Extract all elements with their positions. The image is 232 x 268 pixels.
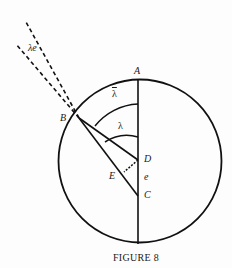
figure-caption: FIGURE 8 [113, 252, 159, 263]
label-e-distance: e [144, 172, 148, 182]
perpendicular-d-e [124, 160, 138, 172]
line-b-c [79, 118, 138, 196]
label-a: A [134, 66, 140, 76]
line-b-d [79, 118, 138, 160]
label-lambda-bar: λ [112, 89, 117, 99]
label-lambda-e: λe [28, 43, 37, 53]
label-c: C [144, 190, 151, 200]
label-e-point: E [109, 171, 115, 181]
circle [59, 80, 222, 243]
dashed-line-inner [16, 44, 79, 118]
label-lambda: λ [118, 121, 123, 131]
figure-canvas: A B D E e C λ λ λe FIGURE 8 [0, 0, 232, 268]
label-d: D [144, 154, 151, 164]
dashed-line-outer [26, 22, 79, 118]
arc-lambda [105, 135, 138, 142]
geometry-diagram [0, 0, 232, 268]
arc-lambda-bar [95, 104, 138, 126]
label-b: B [60, 113, 66, 123]
